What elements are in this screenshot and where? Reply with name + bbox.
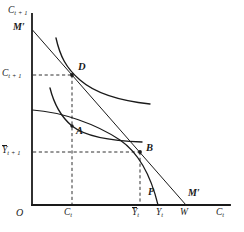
y-tick-label-c-t-plus-1: Ct + 1: [2, 69, 22, 79]
curve-label-m-prime-top: M′: [13, 22, 25, 32]
point-marker-b: [138, 150, 142, 154]
curve-label-m-prime-bottom: M′: [188, 188, 200, 198]
axes-group: [32, 14, 230, 205]
x-tick-label-w: W: [180, 208, 188, 218]
point-label-d: D: [78, 62, 86, 73]
curve-label-p: P: [148, 187, 154, 197]
x-axis-label: Ct: [216, 208, 224, 218]
y-tick-label-y-bar-t-plus-1: Yt + 1: [2, 146, 21, 156]
point-label-a: A: [76, 126, 83, 137]
y-axis-label: Ct + 1: [8, 6, 28, 16]
intertemporal-choice-diagram: Ct + 1 Ct O Ct + 1 Yt + 1 Ct Yt Yt W D A…: [0, 0, 244, 232]
production-possibility-curve: [33, 110, 159, 205]
x-tick-label-y-bar-t: Yt: [132, 208, 139, 218]
point-marker-d: [70, 73, 74, 77]
diagram-canvas: [0, 0, 244, 232]
point-marker-a: [70, 124, 73, 127]
x-tick-label-c-t: Ct: [64, 208, 72, 218]
indifference-curve-high: [56, 38, 150, 104]
origin-label: O: [16, 208, 23, 218]
x-tick-label-y-t: Yt: [156, 208, 163, 218]
dashed-guides-group: [33, 75, 140, 204]
point-label-b: B: [146, 143, 153, 154]
budget-line-mm: [33, 30, 187, 205]
